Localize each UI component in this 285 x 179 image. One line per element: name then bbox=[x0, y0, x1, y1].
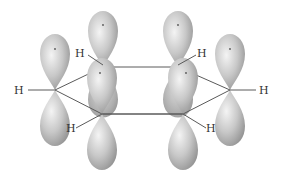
h-label-c2: H bbox=[75, 47, 85, 60]
lobe-lower-c6 bbox=[87, 114, 117, 170]
h-label-c5: H bbox=[206, 122, 216, 135]
lobe-dot-c2 bbox=[102, 24, 104, 26]
lobe-upper-c1 bbox=[40, 34, 70, 90]
lobe-lower-c4 bbox=[215, 90, 245, 146]
lobe-dot-c1 bbox=[54, 48, 56, 50]
h-label-c4: H bbox=[259, 84, 269, 97]
lobe-upper-c4 bbox=[215, 34, 245, 90]
lobe-dot-c6 bbox=[99, 72, 101, 74]
lobe-lower-c5 bbox=[168, 114, 198, 170]
h-label-c1: H bbox=[14, 84, 24, 97]
ring-bonds bbox=[55, 67, 230, 114]
lobe-dot-c5 bbox=[185, 72, 187, 74]
lobe-dot-c4 bbox=[229, 48, 231, 50]
lobe-dot-c3 bbox=[177, 24, 179, 26]
benzene-p-orbital-diagram: H H H H H H bbox=[0, 0, 285, 179]
h-label-c3: H bbox=[197, 47, 207, 60]
lobe-lower-c1 bbox=[40, 90, 70, 146]
h-label-c6: H bbox=[66, 122, 76, 135]
